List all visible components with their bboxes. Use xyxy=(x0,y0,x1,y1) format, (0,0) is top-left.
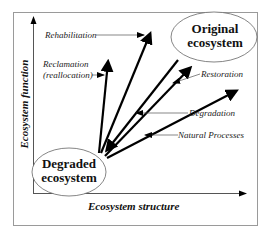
x-axis-title: Ecosystem structure xyxy=(88,200,179,212)
y-axis-arrowhead-icon xyxy=(31,16,37,24)
restoration-label: Restoration xyxy=(201,69,243,79)
degraded-line1: Degraded xyxy=(32,157,106,171)
original-line2: ecosystem xyxy=(176,36,254,50)
original-line1: Original xyxy=(176,22,254,36)
degraded-ecosystem-text: Degraded ecosystem xyxy=(32,157,106,185)
natural-processes-label: Natural Processes xyxy=(178,130,244,140)
original-ecosystem-text: Original ecosystem xyxy=(176,22,254,50)
restoration-leader xyxy=(173,74,200,83)
degraded-line2: ecosystem xyxy=(32,171,106,185)
reclamation-label: Reclamation xyxy=(43,59,89,69)
degradation-label: Degradation xyxy=(189,108,235,118)
y-axis-title: Ecosystem function xyxy=(18,44,30,164)
degradation-arrow xyxy=(107,60,178,150)
x-axis-arrowhead-icon xyxy=(239,191,247,197)
rehabilitation-label: Rehabilitation xyxy=(45,30,97,40)
reclamation-sublabel: (reallocation) xyxy=(43,70,93,80)
